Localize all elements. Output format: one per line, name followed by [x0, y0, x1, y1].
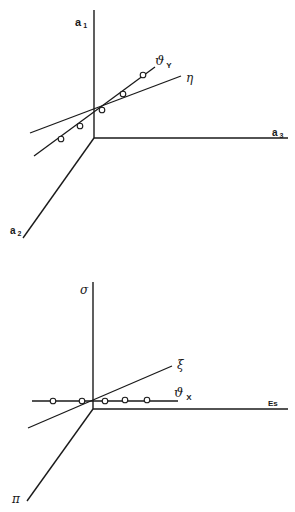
diagram-canvas: a1 a3 a2 η ϑY σ Es π ξ ϑX: [0, 0, 295, 512]
label-theta-x: ϑX: [174, 385, 192, 402]
label-theta-y: ϑY: [155, 53, 172, 70]
data-point: [77, 123, 83, 129]
line-xi: [28, 366, 172, 428]
data-point: [79, 398, 85, 404]
data-point: [102, 398, 108, 404]
label-eta: η: [186, 71, 194, 85]
label-xi: ξ: [177, 358, 185, 372]
data-point: [120, 91, 126, 97]
axis-a2: [23, 138, 94, 238]
label-sigma: σ: [80, 283, 89, 297]
bottom-diagram: σ Es π ξ ϑX: [11, 282, 288, 506]
data-point: [140, 72, 146, 78]
label-es: Es: [268, 399, 278, 408]
label-pi: π: [11, 492, 21, 506]
line-eta: [30, 76, 181, 133]
data-point: [144, 397, 150, 403]
data-point: [58, 136, 64, 142]
data-point: [50, 398, 56, 404]
label-a3: a3: [272, 127, 284, 139]
top-diagram: a1 a3 a2 η ϑY: [10, 10, 288, 238]
axis-pi: [27, 409, 93, 501]
data-point: [122, 397, 128, 403]
data-point: [99, 107, 105, 113]
label-a1: a1: [75, 16, 87, 29]
label-a2: a2: [10, 225, 22, 237]
